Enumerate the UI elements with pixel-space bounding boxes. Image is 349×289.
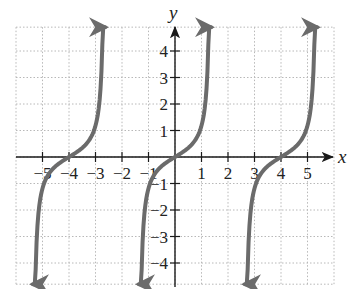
y-tick-label: 4 xyxy=(160,42,169,61)
x-tick-label: −4 xyxy=(60,164,79,183)
x-tick-label: 1 xyxy=(197,164,206,183)
x-tick-label: −2 xyxy=(113,164,131,183)
x-axis-label: x xyxy=(337,146,347,167)
y-tick-label: −2 xyxy=(150,201,168,220)
x-tick-label: 2 xyxy=(224,164,233,183)
x-tick-label: 4 xyxy=(277,164,286,183)
function-graph: x y −5−4−3−2−1123454321−1−2−3−4 xyxy=(0,0,349,289)
y-tick-label: −3 xyxy=(150,228,168,247)
x-tick-label: −3 xyxy=(86,164,104,183)
y-tick-label: 2 xyxy=(160,95,169,114)
y-tick-label: 1 xyxy=(160,122,169,141)
y-axis-label: y xyxy=(167,2,178,23)
x-tick-label: 5 xyxy=(303,164,312,183)
y-tick-label: −4 xyxy=(150,254,169,273)
y-tick-label: 3 xyxy=(160,69,169,88)
